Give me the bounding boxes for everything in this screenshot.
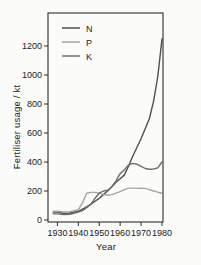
legend: NPK [62, 24, 93, 62]
chart-canvas: NPK 193019401950196019701980020040060080… [0, 0, 201, 265]
y-tick-label: 1200 [22, 41, 42, 51]
x-tick-label: 1930 [47, 228, 67, 238]
axis-ticks [44, 46, 162, 226]
x-tick-label: 1950 [89, 228, 109, 238]
legend-label-K: K [86, 52, 92, 62]
legend-label-N: N [86, 24, 93, 34]
y-tick-label: 800 [27, 99, 42, 109]
y-tick-label: 400 [27, 157, 42, 167]
legend-label-P: P [86, 38, 92, 48]
y-tick-label: 1000 [22, 70, 42, 80]
y-tick-label: 600 [27, 128, 42, 138]
line-N [53, 39, 162, 214]
x-axis-title: Year [96, 241, 116, 252]
x-tick-label: 1940 [68, 228, 88, 238]
x-tick-label: 1970 [131, 228, 151, 238]
data-lines [53, 39, 162, 215]
y-tick-label: 200 [27, 186, 42, 196]
x-tick-label: 1980 [152, 228, 172, 238]
tick-labels: 1930194019501960197019800200400600800100… [22, 41, 172, 238]
x-tick-label: 1960 [110, 228, 130, 238]
y-axis-title: Fertiliser usage / kt [11, 85, 22, 169]
y-tick-label: 0 [37, 215, 42, 225]
fertiliser-usage-chart: NPK 193019401950196019701980020040060080… [0, 0, 201, 265]
